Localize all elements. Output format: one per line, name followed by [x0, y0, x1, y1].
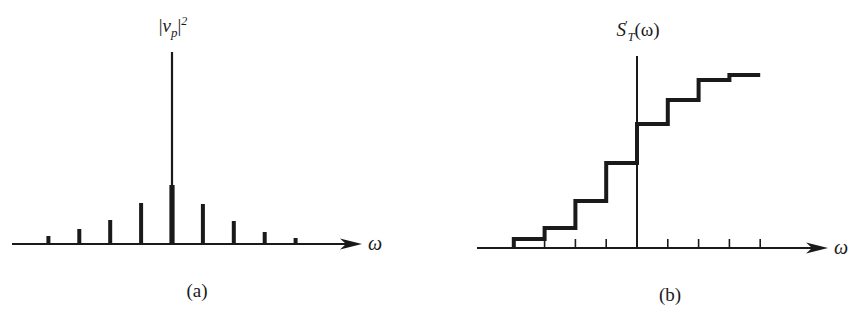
stem-center-base: [169, 185, 174, 244]
panel-a-line-spectrum: [12, 52, 362, 250]
stem: [46, 236, 50, 244]
panel-a-caption: (a): [186, 281, 207, 300]
v-symbol: v: [163, 15, 171, 36]
panel-b-caption: (b): [659, 285, 681, 304]
stem: [77, 229, 81, 244]
panel-b-y-axis-label: S′T(ω): [616, 20, 659, 39]
stem: [108, 220, 112, 244]
stem: [201, 204, 205, 244]
squared-superscript: 2: [181, 14, 187, 28]
figure: |vp|2 ω (a) S′T(ω) ω (b): [0, 0, 854, 320]
stem: [139, 203, 143, 244]
panel-a-x-axis-label: ω: [368, 233, 382, 253]
panel-b-x-axis-label: ω: [834, 237, 848, 257]
omega-argument: (ω): [634, 19, 659, 40]
panel-a-y-axis-label: |vp|2: [159, 16, 188, 35]
stem: [232, 221, 236, 244]
panel-a-stems: [46, 52, 297, 244]
panel-b-cumulative-spectrum: [477, 56, 828, 254]
stem: [263, 232, 267, 244]
stem: [294, 238, 298, 244]
figure-canvas: [0, 0, 854, 320]
